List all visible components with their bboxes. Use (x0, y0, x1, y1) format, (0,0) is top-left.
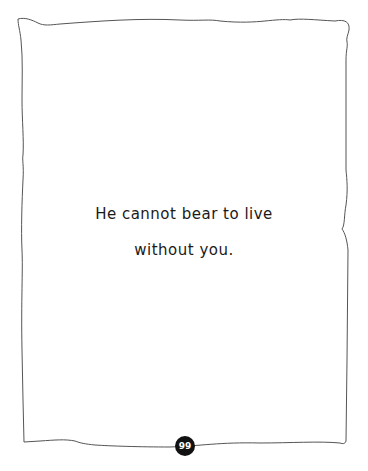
quote-line-1: He cannot bear to live (0, 205, 368, 223)
quote-line-2: without you. (0, 241, 368, 259)
hand-drawn-page-border (0, 0, 368, 471)
page-number-badge: 99 (175, 436, 195, 456)
